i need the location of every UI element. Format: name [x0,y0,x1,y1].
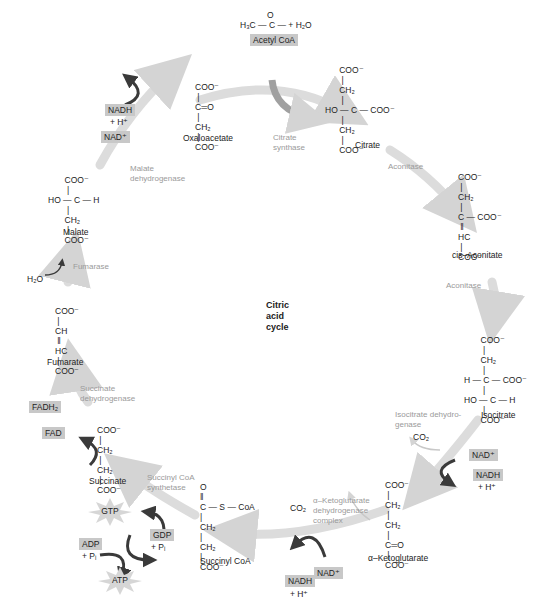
acetyl-coa-label: Acetyl CoA [250,34,298,46]
enzyme-isocitrate-dehydrogenase: Isocitrate dehydro- genase [395,410,461,430]
cofactor-adp-pi: + Pᵢ [82,551,96,561]
cofactor-gdp-pi: + Pᵢ [151,542,165,552]
cofactor-fumarase-h2o: H₂O [27,274,43,284]
cofactor-isocitrate-co2: CO₂ [413,432,429,442]
arrow-citrate-aconitate [390,150,460,212]
cofactor-malate-h: + H⁺ [110,117,128,127]
name-citrate: Citrate [355,140,380,150]
cofactor-atp: ATP [98,575,142,585]
name-oxaloacetate: Oxaloacetate [183,133,233,143]
acetyl-carbonyl: O [267,10,274,20]
cofactor-isocitrate-h: + H⁺ [478,482,496,492]
cofactor-isocitrate-nad: NAD⁺ [469,449,498,461]
acetyl-formula: H₃C — C — + H₂O [240,20,312,30]
name-isocitrate: Isocitrate [481,410,516,420]
cofactor-adp: ADP [79,538,102,550]
enzyme-fumarase: Fumarase [73,262,109,272]
arrow-aconitate-isocitrate [492,282,495,318]
cofactor-akg-nadh: NADH [285,575,315,587]
atp-starburst: ATP [98,567,142,595]
cofactor-succinate-fad: FAD [42,427,65,439]
name-cis-aconitate: cis–Aconitate [452,250,503,260]
cofactor-gdp: GDP [150,529,174,541]
arrow-fumarate-malate [68,256,71,282]
name-succinyl-coa: Succinyl CoA [200,556,251,566]
cofactor-malate-nadh: NADH [105,104,135,116]
molecule-succinate: COO⁻ |CH₂ |CH₂ |COO⁻ [97,405,121,505]
cycle-title: Citric acid cycle [266,300,289,333]
molecule-malate: COO⁻ |HO — C — H | CH₂ | COO⁻ [48,155,99,255]
cofactor-succinate-fadh2: FADH₂ [29,401,61,413]
name-alpha-ketoglutarate: α–Ketoglutarate [368,553,428,563]
arrow-malate-nad [125,78,138,105]
cofactor-akg-co2: CO₂ [290,503,306,513]
arrow-succinate-fad [85,440,96,465]
cofactor-akg-h: + H⁺ [290,589,308,599]
cofactor-malate-nad: NAD⁺ [101,131,130,143]
cofactor-akg-nad: NAD⁺ [314,567,343,579]
enzyme-aconitase-1: Aconitase [388,162,423,172]
enzyme-citrate-synthase: Citrate synthase [273,133,305,153]
name-succinate: Succinate [89,476,126,486]
arrow-gtp-gdp [128,535,151,560]
cofactor-gtp: GTP [88,506,132,516]
name-malate: Malate [63,227,89,237]
name-fumarate: Fumarate [47,357,83,367]
arrow-akg-nad [295,537,325,557]
arrow-h2o-fumarase [45,262,62,275]
gtp-starburst: GTP [88,498,132,526]
molecule-oxaloacetate: COO⁻ |C═O |CH₂ |COO⁻ [195,62,219,162]
enzyme-malate-dehydrogenase: Malate dehydrogenase [130,164,185,184]
cofactor-isocitrate-nadh: NADH [473,469,503,481]
enzyme-akg-dehydrogenase-complex: α–Ketoglutarate dehydrogenase complex [313,496,370,526]
enzyme-succinyl-coa-synthetase: Succinyl CoA synthetase [147,473,195,493]
molecule-fumarate: COO⁻ |CH ‖HC |COO⁻ [55,286,79,386]
enzyme-succinate-dehydrogenase: Succinate dehydrogenase [80,384,135,404]
enzyme-aconitase-2: Aconitase [446,281,481,291]
